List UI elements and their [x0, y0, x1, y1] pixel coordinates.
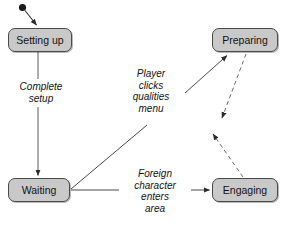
- start-state-dot: [19, 4, 26, 11]
- edge-start-to-setting-up: [25, 11, 37, 26]
- state-node-engaging[interactable]: Engaging: [212, 178, 278, 202]
- edge-player-clicks-upper: [185, 56, 227, 94]
- state-label-engaging: Engaging: [223, 185, 267, 196]
- edge-label-player-clicks-qualities-menu: Player clicks qualities menu: [120, 68, 182, 114]
- edge-engaging-dashed: [213, 134, 243, 177]
- state-node-waiting[interactable]: Waiting: [8, 178, 70, 202]
- state-label-preparing: Preparing: [222, 35, 268, 46]
- edge-label-complete-setup: Complete setup: [12, 81, 70, 104]
- state-label-waiting: Waiting: [22, 185, 57, 196]
- edge-preparing-dashed: [222, 54, 246, 118]
- state-node-setting-up[interactable]: Setting up: [8, 28, 72, 52]
- state-node-preparing[interactable]: Preparing: [212, 28, 278, 52]
- state-diagram: Setting up Preparing Waiting Engaging Co…: [0, 0, 289, 228]
- state-label-setting-up: Setting up: [16, 35, 63, 46]
- edge-label-foreign-character-enters-area: Foreign character enters area: [120, 168, 190, 214]
